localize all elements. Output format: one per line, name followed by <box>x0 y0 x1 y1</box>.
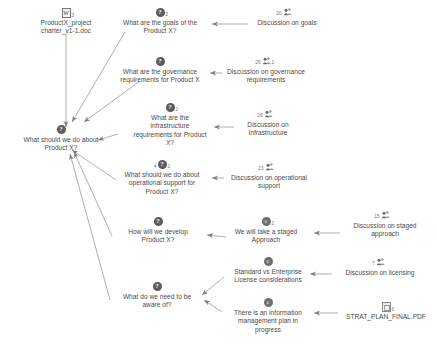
node-a-license[interactable]: ♀Standard vs Enterprise License consider… <box>216 257 320 285</box>
node-icon-row: 15 <box>338 211 432 222</box>
node-a-infoplan[interactable]: ♀There is an information management plan… <box>216 298 320 334</box>
discussion-node-icon[interactable] <box>283 8 292 16</box>
node-badge-left: 20 <box>276 11 281 16</box>
node-q-operational[interactable]: ?42What should we do about operational s… <box>110 160 214 196</box>
discussion-node-icon[interactable] <box>381 211 390 219</box>
node-badge-left: 7 <box>372 261 375 266</box>
node-d-staged[interactable]: 15Discussion on staged approach <box>338 211 432 239</box>
node-label: Discussion on staged approach <box>338 222 432 239</box>
question-node-icon[interactable]: ? <box>57 125 66 134</box>
question-node-icon[interactable]: ? <box>156 8 165 17</box>
discussion-node-icon[interactable] <box>265 163 274 171</box>
node-icon-wrap[interactable]: W3 <box>62 8 71 18</box>
node-label: Discussion on governance requirements <box>213 68 319 85</box>
node-label: Discussion on licensing <box>330 269 430 277</box>
node-icon-row: ♀ <box>216 257 320 268</box>
node-icon-wrap[interactable]: ? <box>156 57 165 66</box>
answer-node-icon[interactable]: ♀ <box>262 217 271 226</box>
node-badge-left: 23 <box>258 166 263 171</box>
answer-node-icon[interactable]: ♀ <box>264 257 273 266</box>
node-d-infrastructure[interactable]: 26Discussion on Infrastructure <box>228 110 308 138</box>
node-label: What should we do about Product X? <box>2 136 120 153</box>
edge-q-develop-to-q-root <box>74 152 112 236</box>
node-icon-row: ♀ <box>216 298 320 309</box>
node-a-staged[interactable]: ♀2We will take a staged Approach <box>220 217 312 245</box>
node-icon-wrap[interactable]: 15 <box>381 211 390 219</box>
node-q-governance[interactable]: ?What are the governance requirements fo… <box>106 57 214 85</box>
node-badge-left: 26 <box>257 113 262 118</box>
node-icon-row: ? <box>2 125 120 136</box>
node-q-aware[interactable]: ?What do we need to be aware of? <box>104 282 210 310</box>
node-badge-left: 15 <box>374 214 379 219</box>
node-icon-wrap[interactable]: 6 <box>382 302 391 312</box>
node-icon-wrap[interactable]: ? <box>153 282 162 291</box>
discussion-node-icon[interactable] <box>376 258 385 266</box>
node-icon-row: 262 <box>213 57 319 68</box>
node-icon-wrap[interactable]: ♀2 <box>262 217 271 226</box>
node-icon-row: ?2 <box>122 103 218 114</box>
node-d-governance[interactable]: 262Discussion on governance requirements <box>213 57 319 85</box>
node-icon-wrap[interactable]: 20 <box>283 8 292 16</box>
node-q-goals[interactable]: ?2What are the goals of the Product X? <box>108 8 212 36</box>
node-doc-strat[interactable]: 6STRAT_PLAN_FINAL.PDF <box>336 302 436 321</box>
node-label: STRAT_PLAN_FINAL.PDF <box>336 313 436 321</box>
node-icon-wrap[interactable]: 262 <box>262 57 271 65</box>
node-icon-row: 26 <box>228 110 308 121</box>
node-label: What do we need to be aware of? <box>104 293 210 310</box>
node-icon-row: ♀2 <box>220 217 312 228</box>
discussion-node-icon[interactable] <box>262 57 271 65</box>
question-node-icon[interactable]: ? <box>166 103 175 112</box>
question-node-icon[interactable]: ? <box>156 57 165 66</box>
answer-node-icon[interactable]: ♀ <box>264 298 273 307</box>
node-icon-row: ? <box>106 57 214 68</box>
discussion-node-icon[interactable] <box>264 110 273 118</box>
node-label: What are the infrastructure requirements… <box>122 114 218 148</box>
node-label: Discussion on operational support <box>216 174 322 191</box>
node-label: What are the governance requirements for… <box>106 68 214 85</box>
node-d-goals[interactable]: 20Discussion on goals <box>240 8 334 27</box>
node-icon-row: 6 <box>336 302 436 313</box>
node-label: We will take a staged Approach <box>220 228 312 245</box>
node-icon-wrap[interactable]: ?2 <box>166 103 175 112</box>
node-icon-wrap[interactable]: ♀ <box>264 298 273 307</box>
node-icon-wrap[interactable]: 7 <box>376 258 385 266</box>
node-label: What should we do about operational supp… <box>110 171 214 196</box>
node-icon-wrap[interactable]: ?42 <box>158 160 167 169</box>
node-badge-right: 3 <box>72 13 75 18</box>
question-node-icon[interactable]: ? <box>154 217 163 226</box>
node-label: Discussion on Infrastructure <box>228 121 308 138</box>
node-badge-right: 2 <box>272 60 275 65</box>
node-q-develop[interactable]: ?How will we develop Product X? <box>108 217 208 245</box>
node-d-licensing[interactable]: 7Discussion on licensing <box>330 258 430 277</box>
node-q-infrastructure[interactable]: ?2What are the infrastructure requiremen… <box>122 103 218 148</box>
word-document-icon[interactable]: W <box>62 8 71 18</box>
node-label: ProductX_project charter_v1-1.doc <box>18 19 114 36</box>
node-doc-charter[interactable]: W3ProductX_project charter_v1-1.doc <box>18 8 114 36</box>
node-icon-row: 7 <box>330 258 430 269</box>
node-q-root[interactable]: ?What should we do about Product X? <box>2 125 120 153</box>
node-label: What are the goals of the Product X? <box>108 19 212 36</box>
edge-q-aware-to-q-root <box>70 154 110 300</box>
issue-map-canvas[interactable]: W3ProductX_project charter_v1-1.doc?What… <box>0 0 437 355</box>
question-node-icon[interactable]: ? <box>158 160 167 169</box>
node-icon-row: ?42 <box>110 160 214 171</box>
node-icon-row: ? <box>108 217 208 228</box>
node-icon-row: ?2 <box>108 8 212 19</box>
node-icon-wrap[interactable]: 26 <box>264 110 273 118</box>
node-badge-left: 4 <box>154 164 157 169</box>
node-icon-row: 20 <box>240 8 334 19</box>
node-d-operational[interactable]: 23Discussion on operational support <box>216 163 322 191</box>
pdf-document-icon[interactable] <box>382 302 391 312</box>
node-icon-row: 23 <box>216 163 322 174</box>
node-icon-wrap[interactable]: 23 <box>265 163 274 171</box>
node-icon-row: W3 <box>18 8 114 19</box>
node-badge-left: 26 <box>255 60 260 65</box>
node-icon-wrap[interactable]: ? <box>57 125 66 134</box>
node-icon-wrap[interactable]: ♀ <box>264 257 273 266</box>
node-badge-right: 2 <box>176 107 179 112</box>
node-label: Standard vs Enterprise License considera… <box>216 268 320 285</box>
question-node-icon[interactable]: ? <box>153 282 162 291</box>
node-icon-wrap[interactable]: ? <box>154 217 163 226</box>
node-badge-right: 2 <box>168 164 171 169</box>
node-icon-wrap[interactable]: ?2 <box>156 8 165 17</box>
